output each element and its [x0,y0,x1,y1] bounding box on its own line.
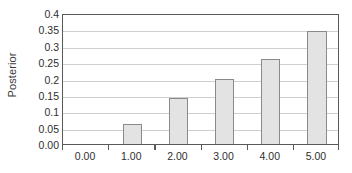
y-tick-label: 0.4 [44,8,59,20]
y-tick-label: 0.35 [39,24,59,36]
bar [169,98,188,144]
y-axis-title-text: Posterior [6,53,18,98]
y-tick-label: 0.3 [44,41,59,53]
bars-layer [63,15,338,144]
bar [261,59,280,144]
y-tick-label: 0.15 [39,90,59,102]
y-tick-label: 0.1 [44,106,59,118]
x-tick-label: 4.00 [260,150,280,162]
bar [307,31,326,144]
y-tick-label: 0.05 [39,123,59,135]
y-axis-tick-labels: 0.000.050.10.150.20.250.30.350.4 [24,14,62,145]
bar [215,79,234,145]
y-tick-label: 0.00 [39,139,59,151]
x-tick-label: 3.00 [213,150,233,162]
plot-area [62,14,339,145]
x-tick-label: 0.00 [75,150,95,162]
bar [123,124,142,144]
x-axis-tick-labels: 0.001.002.003.004.005.00 [62,150,339,170]
y-tick-label: 0.2 [44,74,59,86]
x-tick-label: 1.00 [121,150,141,162]
x-tick-label: 5.00 [306,150,326,162]
y-tick-label: 0.25 [39,57,59,69]
y-axis-title: Posterior [0,0,24,150]
bar-chart: Posterior 0.000.050.10.150.20.250.30.350… [0,0,352,173]
x-tick-label: 2.00 [167,150,187,162]
